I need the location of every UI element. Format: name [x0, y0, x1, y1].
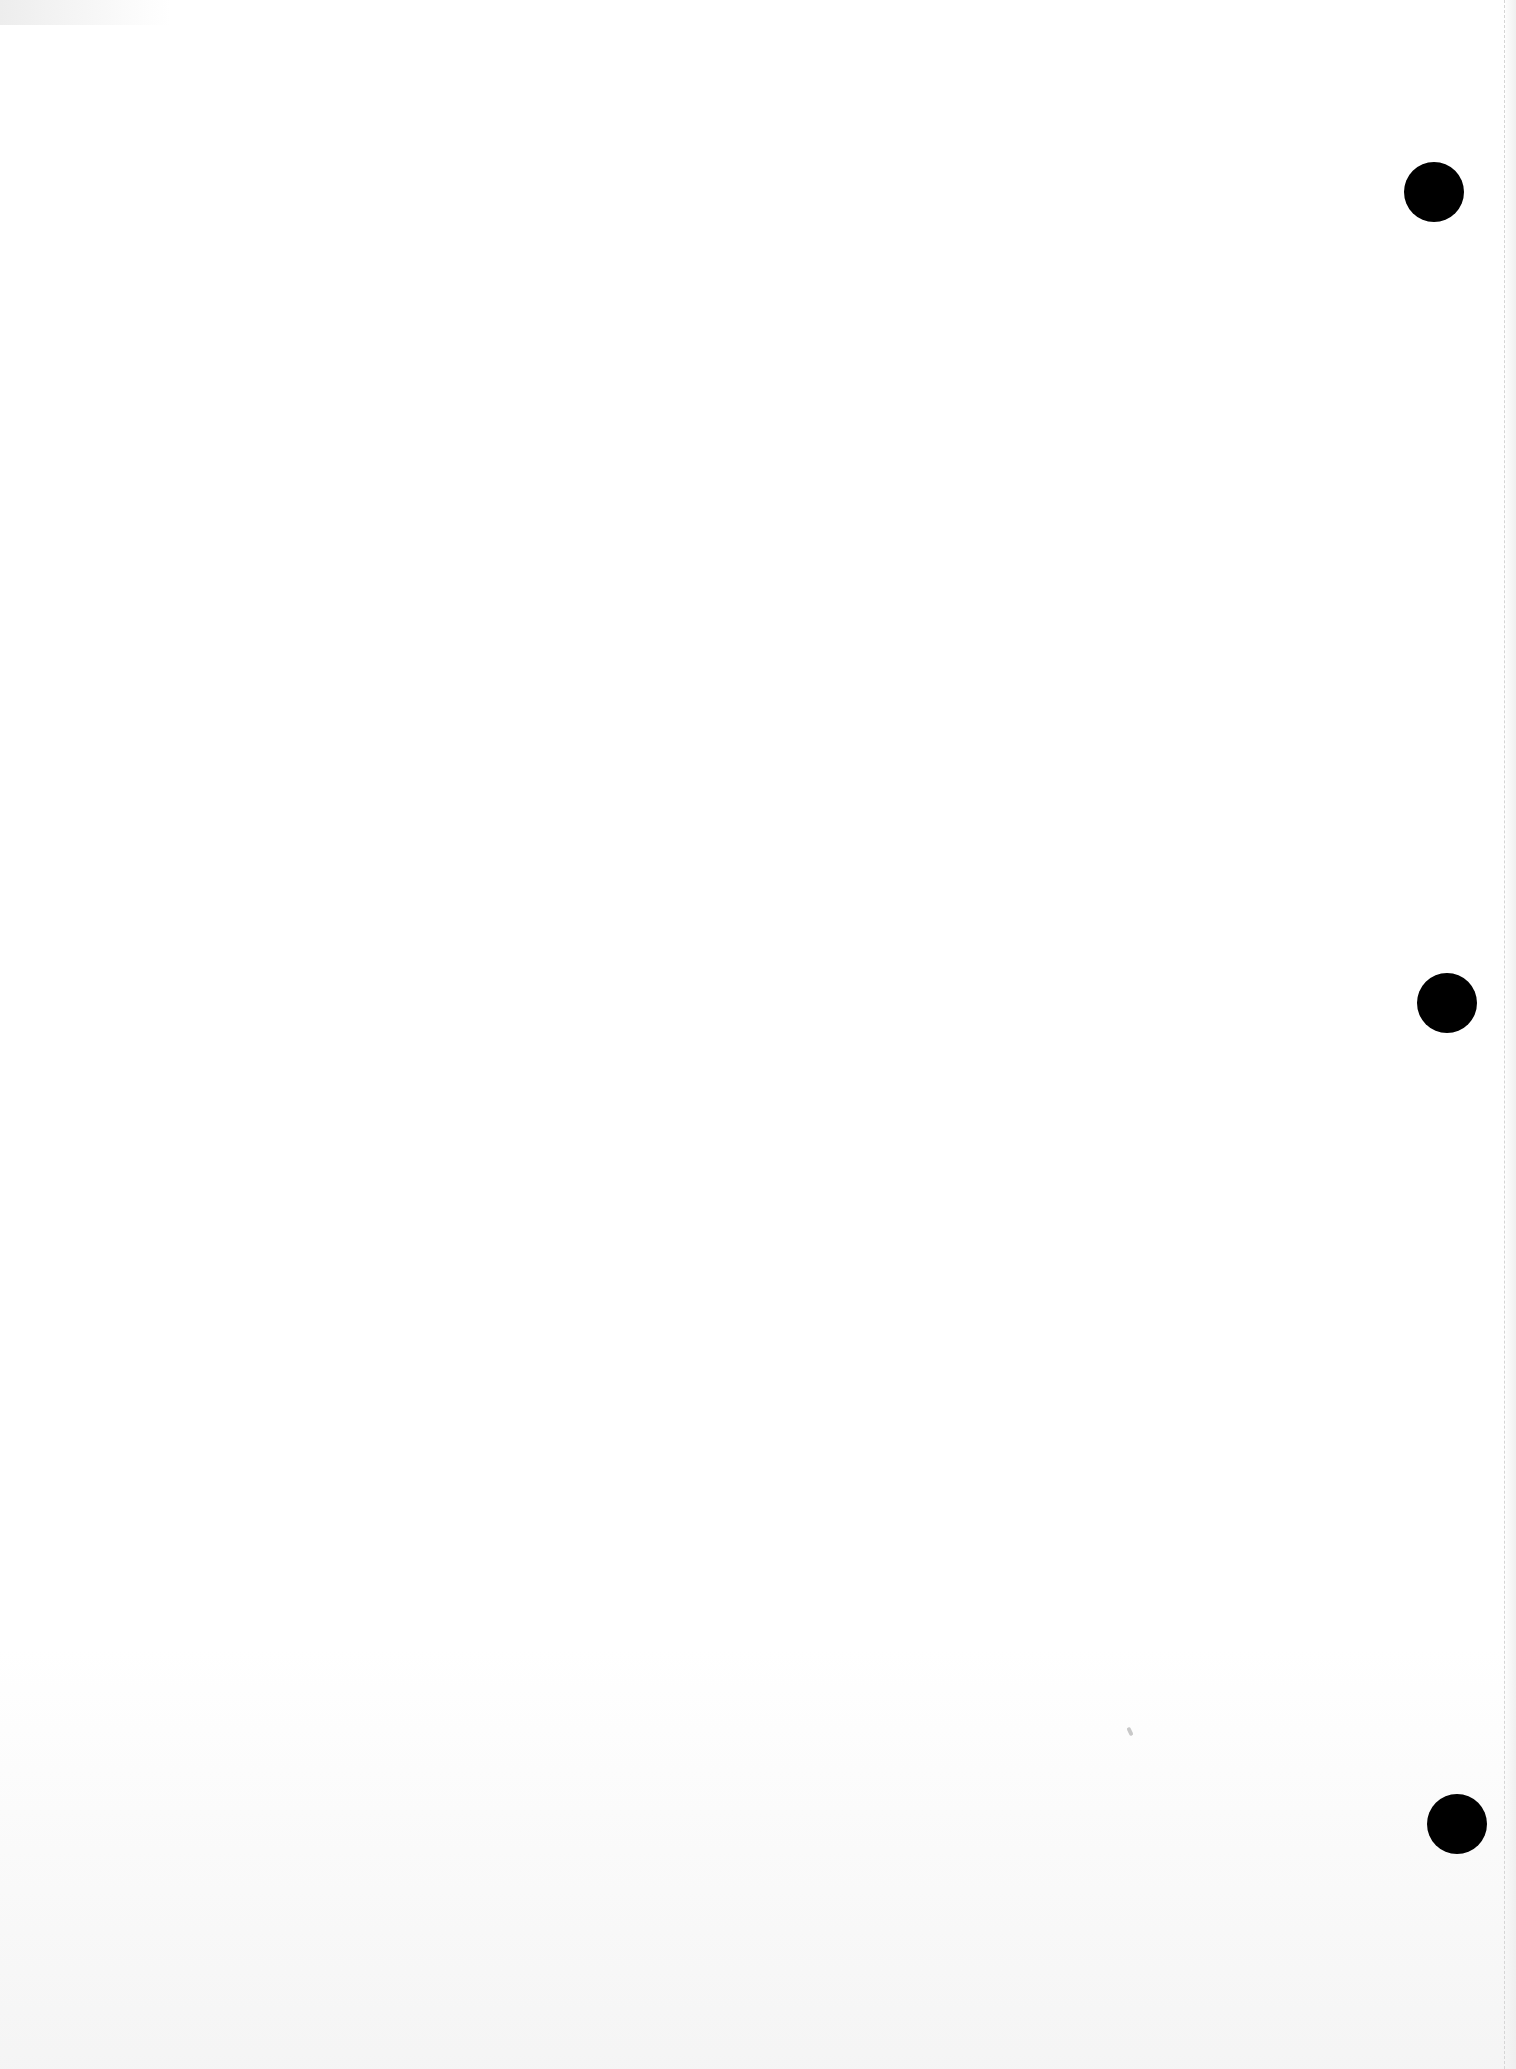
punch-hole-middle: [1417, 973, 1477, 1033]
punch-hole-top: [1404, 162, 1464, 222]
page-edge-shade: [1504, 0, 1516, 2069]
scan-texture: [0, 1649, 1516, 2069]
punch-hole-bottom: [1427, 1794, 1487, 1854]
scanned-blank-page: [0, 0, 1516, 2069]
dust-speck: [1126, 1727, 1133, 1737]
scan-smudge: [0, 0, 170, 25]
margin-line: [1504, 0, 1505, 2069]
